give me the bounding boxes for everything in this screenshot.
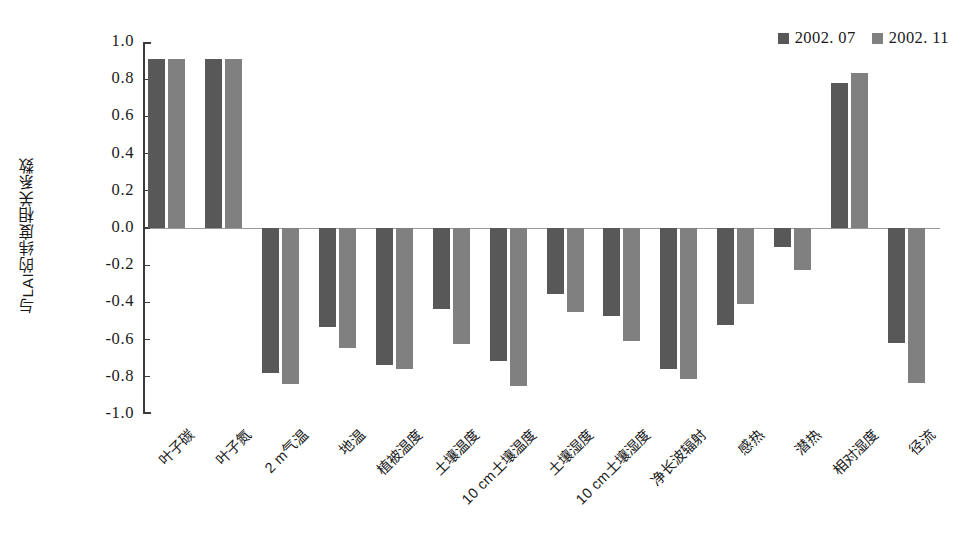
bar[interactable]: [168, 59, 185, 228]
y-axis-tick-label: 1.0: [60, 33, 134, 50]
y-axis-tick-label: 0.2: [60, 182, 134, 199]
bar[interactable]: [623, 228, 640, 341]
y-axis-tick-label: -0.2: [60, 256, 134, 273]
bar[interactable]: [205, 59, 222, 228]
y-axis-title: 与LAI的纬度相关系数: [14, 96, 42, 376]
y-axis-tick-label: 0.6: [60, 107, 134, 124]
bar[interactable]: [148, 59, 165, 228]
legend-item[interactable]: 2002. 07: [778, 30, 856, 47]
bar[interactable]: [319, 228, 336, 327]
y-axis-tick-label: -1.0: [60, 405, 134, 422]
bar-chart: 与LAI的纬度相关系数 1.00.80.60.40.20.0-0.2-0.4-0…: [0, 0, 965, 560]
bar-group: [200, 42, 257, 414]
bar-group: [826, 42, 883, 414]
x-axis-category-labels: 叶子碳叶子氮2 m气温地温植被温度土壤温度10 cm土壤温度土壤湿度10 cm土…: [143, 414, 940, 560]
bar[interactable]: [225, 59, 242, 228]
bar[interactable]: [547, 228, 564, 294]
y-axis-tick-label: -0.4: [60, 293, 134, 310]
x-axis-label: 2 m气温: [259, 424, 312, 477]
bar-group: [883, 42, 940, 414]
bar-group: [655, 42, 712, 414]
bar[interactable]: [831, 83, 848, 228]
x-axis-label: 净长波辐射: [645, 424, 710, 489]
y-axis-tick-label: 0.4: [60, 145, 134, 162]
legend-label: 2002. 11: [889, 30, 949, 47]
x-axis-label: 土壤温度: [428, 424, 483, 479]
bar[interactable]: [660, 228, 677, 369]
bar[interactable]: [262, 228, 279, 373]
y-axis-tick-label: -0.8: [60, 368, 134, 385]
bar-group: [542, 42, 599, 414]
bar[interactable]: [717, 228, 734, 325]
bars-layer: [143, 42, 940, 414]
bar[interactable]: [774, 228, 791, 247]
bar-group: [314, 42, 371, 414]
x-axis-label: 叶子碳: [153, 424, 198, 469]
legend-item[interactable]: 2002. 11: [872, 30, 949, 47]
x-axis-label: 感热: [732, 424, 767, 459]
bar[interactable]: [339, 228, 356, 348]
y-axis-tick-label: -0.6: [60, 331, 134, 348]
bar-group: [598, 42, 655, 414]
bar[interactable]: [282, 228, 299, 384]
bar[interactable]: [794, 228, 811, 270]
x-axis-label: 土壤湿度: [542, 424, 597, 479]
bar-group: [485, 42, 542, 414]
bar[interactable]: [680, 228, 697, 379]
y-axis-tick-label: 0.8: [60, 70, 134, 87]
bar[interactable]: [433, 228, 450, 309]
x-axis-label: 地温: [334, 424, 369, 459]
x-axis-label: 径流: [903, 424, 938, 459]
bar-group: [769, 42, 826, 414]
bar-group: [428, 42, 485, 414]
x-axis-label: 叶子氮: [210, 424, 255, 469]
bar[interactable]: [510, 228, 527, 386]
bar[interactable]: [396, 228, 413, 369]
bar-group: [143, 42, 200, 414]
legend-swatch-icon: [872, 33, 883, 44]
x-axis-label: 相对湿度: [826, 424, 881, 479]
y-axis-tick-label: 0.0: [60, 219, 134, 236]
bar[interactable]: [603, 228, 620, 316]
bar[interactable]: [908, 228, 925, 383]
x-axis-label: 潜热: [789, 424, 824, 459]
legend-label: 2002. 07: [795, 30, 856, 47]
bar[interactable]: [453, 228, 470, 344]
legend-swatch-icon: [778, 33, 789, 44]
bar[interactable]: [851, 73, 868, 228]
bar[interactable]: [490, 228, 507, 361]
bar-group: [712, 42, 769, 414]
bar[interactable]: [376, 228, 393, 365]
bar[interactable]: [567, 228, 584, 312]
bar[interactable]: [737, 228, 754, 304]
bar-group: [257, 42, 314, 414]
legend: 2002. 072002. 11: [778, 30, 949, 47]
bar[interactable]: [888, 228, 905, 343]
bar-group: [371, 42, 428, 414]
x-axis-label: 植被温度: [371, 424, 426, 479]
